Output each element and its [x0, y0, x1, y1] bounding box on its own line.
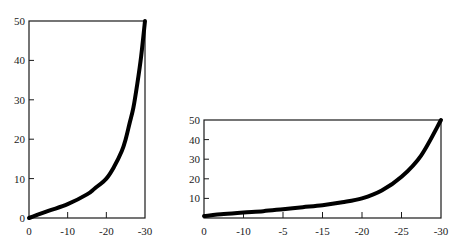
y-tick-label: 30	[14, 94, 26, 106]
data-curve	[204, 120, 441, 216]
x-tick-label: -10	[60, 225, 75, 237]
data-curve	[29, 21, 145, 218]
x-tick-label: -30	[434, 225, 449, 237]
x-tick-label: 0	[26, 225, 32, 237]
x-tick-label: -15	[315, 225, 330, 237]
x-tick-label: -30	[138, 225, 153, 237]
y-tick-label: 20	[189, 173, 201, 185]
y-tick-label: 10	[14, 173, 26, 185]
x-tick-label: -25	[394, 225, 409, 237]
y-tick-label: 50	[14, 15, 26, 27]
plot-frame	[29, 21, 145, 218]
y-tick-label: 10	[189, 192, 201, 204]
x-tick-label: 0	[201, 225, 207, 237]
chart-canvas: 010203040500-10-20-30 10203040500-10-5-1…	[0, 0, 453, 251]
x-tick-label: -5	[278, 225, 288, 237]
left-chart: 010203040500-10-20-30	[14, 15, 153, 237]
x-tick-label: -20	[99, 225, 114, 237]
y-tick-label: 20	[14, 133, 26, 145]
y-tick-label: 40	[14, 54, 26, 66]
right-chart: 10203040500-10-5-15-20-25-30	[189, 114, 449, 237]
y-tick-label: 40	[189, 134, 201, 146]
x-tick-label: -10	[236, 225, 251, 237]
x-tick-label: -20	[355, 225, 370, 237]
y-tick-label: 50	[189, 114, 201, 126]
y-tick-label: 0	[20, 212, 26, 224]
y-tick-label: 30	[189, 153, 201, 165]
